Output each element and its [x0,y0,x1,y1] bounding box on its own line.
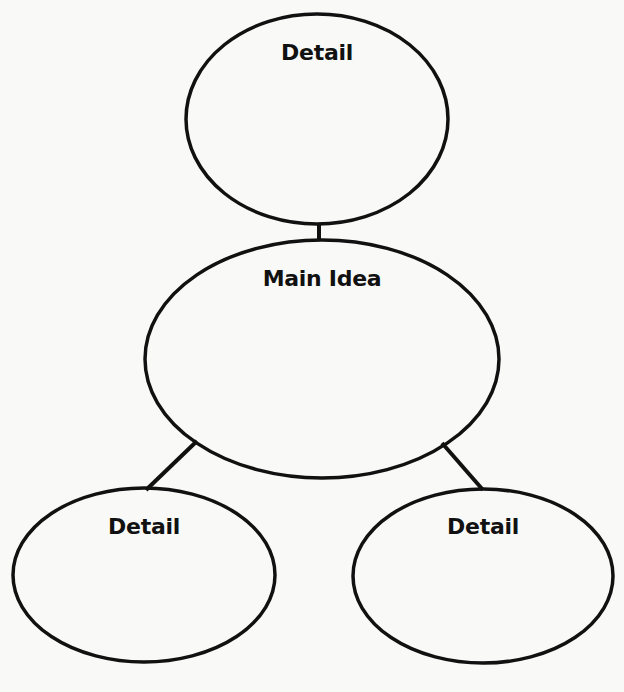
main-idea-writing-area[interactable] [198,305,446,448]
connector-main-to-bottom-left [146,441,197,490]
top-detail-label: Detail [281,42,353,64]
top-detail-writing-area[interactable] [225,72,408,198]
main-idea-label: Main Idea [263,268,382,290]
graphic-organizer: Detail Main Idea Detail Detail [0,0,624,692]
bottom-right-detail-writing-area[interactable] [392,537,574,641]
bottom-left-detail-writing-area[interactable] [52,536,235,640]
bottom-right-detail-label: Detail [447,516,519,538]
bottom-left-detail-label: Detail [108,516,180,538]
connector-main-to-bottom-right [442,443,483,490]
